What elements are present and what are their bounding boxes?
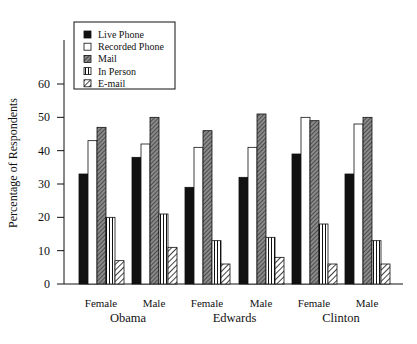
bar <box>141 144 150 284</box>
legend-swatch <box>84 43 91 50</box>
legend-swatch <box>84 68 91 75</box>
legend-swatch <box>84 55 91 62</box>
candidate-label: Clinton <box>322 311 360 325</box>
bar <box>354 124 363 284</box>
y-tick-label: 50 <box>38 110 50 124</box>
x-tick-label: Female <box>298 297 330 309</box>
candidate-label: Edwards <box>213 311 257 325</box>
legend-label: Mail <box>98 53 117 64</box>
y-tick-label: 60 <box>38 77 50 91</box>
bar <box>150 117 159 284</box>
candidate-label: Obama <box>110 311 147 325</box>
bar <box>257 114 266 284</box>
bar <box>266 237 275 284</box>
bar <box>363 117 372 284</box>
bar <box>248 147 257 284</box>
y-axis-label: Percentage of Respondents <box>6 98 20 228</box>
y-tick-label: 20 <box>38 210 50 224</box>
bar <box>159 214 168 284</box>
bar <box>88 141 97 284</box>
bar <box>328 264 337 284</box>
y-tick-label: 40 <box>38 144 50 158</box>
bar-group <box>292 117 337 284</box>
bar <box>301 117 310 284</box>
bar <box>239 177 248 284</box>
bar <box>372 241 381 284</box>
legend-label: Live Phone <box>98 29 144 40</box>
bar <box>212 241 221 284</box>
legend-swatch <box>84 31 91 38</box>
bar <box>97 127 106 284</box>
y-tick-label: 10 <box>38 244 50 258</box>
x-tick-label: Male <box>143 297 166 309</box>
bar <box>345 174 354 284</box>
bar <box>310 121 319 284</box>
x-labels: FemaleMaleFemaleMaleFemaleMaleObamaEdwar… <box>85 297 379 325</box>
bars <box>79 114 390 284</box>
legend-swatch <box>84 80 91 87</box>
bar <box>381 264 390 284</box>
x-tick-label: Female <box>191 297 223 309</box>
y-tick-label: 30 <box>38 177 50 191</box>
y-tick-label: 0 <box>44 277 50 291</box>
bar <box>185 187 194 284</box>
bar-group <box>239 114 284 284</box>
bar-group <box>79 127 124 284</box>
bar <box>115 261 124 284</box>
legend: Live PhoneRecorded PhoneMailIn PersonE-m… <box>74 22 175 89</box>
bar-group <box>185 131 230 284</box>
figure-caption-cropped <box>48 332 288 338</box>
bar-group <box>345 117 390 284</box>
legend-label: E-mail <box>98 78 125 89</box>
bar <box>221 264 230 284</box>
bar <box>319 224 328 284</box>
bar <box>168 247 177 284</box>
legend-label: In Person <box>98 66 136 77</box>
bar <box>275 257 284 284</box>
bar-group <box>132 117 177 284</box>
bar <box>132 157 141 284</box>
y-ticks: 0102030405060 <box>38 77 64 291</box>
x-tick-label: Female <box>85 297 117 309</box>
bar <box>106 217 115 284</box>
bar <box>292 154 301 284</box>
bar <box>194 147 203 284</box>
bar <box>203 131 212 284</box>
x-tick-label: Male <box>250 297 273 309</box>
bar <box>79 174 88 284</box>
legend-label: Recorded Phone <box>98 41 164 52</box>
grouped-bar-chart: 0102030405060 FemaleMaleFemaleMaleFemale… <box>0 0 417 344</box>
x-tick-label: Male <box>356 297 379 309</box>
